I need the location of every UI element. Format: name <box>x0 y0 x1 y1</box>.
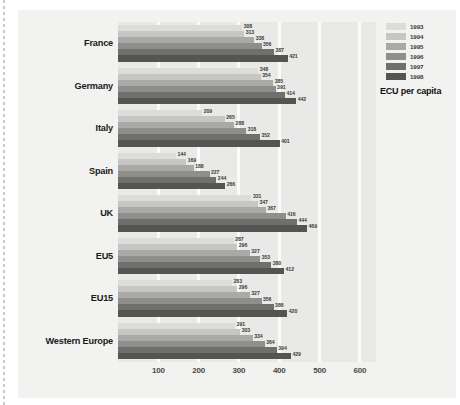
value-label-germany-1997: 414 <box>286 90 294 96</box>
legend-swatch-1993 <box>386 23 406 30</box>
x-axis-tick-labels: 100200300400500600 <box>118 366 376 382</box>
category-label-western-europe: Western Europe <box>46 336 113 346</box>
legend-label-1994: 1994 <box>410 33 423 40</box>
value-label-uk-1997: 444 <box>298 217 306 223</box>
chart-figure: FranceGermanyItalySpainUKEU5EU15Western … <box>18 10 456 398</box>
value-label-western-europe-1997: 394 <box>278 345 286 351</box>
legend-label-1993: 1993 <box>410 23 423 30</box>
bar-western-europe-1998 <box>118 353 291 359</box>
bar-groups: 3083133383563874213483543853914144422092… <box>118 22 376 362</box>
category-axis-labels: FranceGermanyItalySpainUKEU5EU15Western … <box>18 22 113 362</box>
value-label-france-1996: 356 <box>263 41 271 47</box>
category-label-eu5: EU5 <box>96 251 113 261</box>
legend-label-1995: 1995 <box>410 43 423 50</box>
legend-swatch-1994 <box>386 33 406 40</box>
bar-germany-1998 <box>118 98 296 104</box>
value-label-italy-1994: 265 <box>226 114 234 120</box>
value-label-eu5-1997: 380 <box>273 260 281 266</box>
bar-eu15-1998 <box>118 310 287 316</box>
legend-swatch-1996 <box>386 53 406 60</box>
category-label-eu15: EU15 <box>91 293 113 303</box>
value-label-western-europe-1996: 364 <box>266 339 274 345</box>
category-label-spain: Spain <box>89 166 113 176</box>
legend-entry-1993: 1993 <box>386 22 452 31</box>
legend-label-1997: 1997 <box>410 63 423 70</box>
value-label-germany-1998: 442 <box>298 96 306 102</box>
value-label-italy-1993: 209 <box>204 108 212 114</box>
value-label-eu5-1996: 353 <box>262 254 270 260</box>
legend-swatch-1995 <box>386 43 406 50</box>
x-tick-400: 400 <box>273 366 286 375</box>
legend-swatch-1997 <box>386 63 406 70</box>
x-tick-300: 300 <box>233 366 246 375</box>
bar-uk-1998 <box>118 225 307 231</box>
chart-legend: 199319941995199619971998 ECU per capita <box>386 22 452 96</box>
value-label-france-1997: 387 <box>276 47 284 53</box>
value-label-eu15-1998: 420 <box>289 308 297 314</box>
value-label-eu15-1997: 386 <box>275 302 283 308</box>
legend-entry-1997: 1997 <box>386 62 452 71</box>
bar-france-1998 <box>118 55 288 61</box>
x-tick-500: 500 <box>313 366 326 375</box>
value-label-eu15-1994: 296 <box>239 284 247 290</box>
bar-eu5-1998 <box>118 268 284 274</box>
value-label-western-europe-1995: 334 <box>254 333 262 339</box>
value-label-spain-1998: 266 <box>227 181 235 187</box>
value-label-eu5-1998: 412 <box>286 266 294 272</box>
value-label-spain-1993: 144 <box>178 151 186 157</box>
value-label-spain-1995: 188 <box>195 163 203 169</box>
legend-entry-1994: 1994 <box>386 32 452 41</box>
value-label-eu5-1995: 327 <box>251 248 259 254</box>
value-label-italy-1997: 352 <box>261 132 269 138</box>
legend-entries: 199319941995199619971998 <box>386 22 452 81</box>
value-label-italy-1998: 401 <box>281 138 289 144</box>
x-tick-600: 600 <box>354 366 367 375</box>
legend-axis-title: ECU per capita <box>380 86 452 96</box>
value-label-italy-1996: 318 <box>248 126 256 132</box>
value-label-eu5-1994: 296 <box>239 242 247 248</box>
value-label-spain-1997: 244 <box>218 175 226 181</box>
page-scan-edge-artifact <box>3 0 5 405</box>
category-label-uk: UK <box>100 208 113 218</box>
value-label-eu15-1995: 327 <box>251 290 259 296</box>
value-label-italy-1995: 288 <box>236 120 244 126</box>
value-label-uk-1998: 469 <box>309 223 317 229</box>
value-label-germany-1996: 391 <box>277 84 285 90</box>
value-label-uk-1995: 367 <box>267 205 275 211</box>
legend-label-1998: 1998 <box>410 73 423 80</box>
legend-entry-1998: 1998 <box>386 72 452 81</box>
legend-entry-1996: 1996 <box>386 52 452 61</box>
category-label-italy: Italy <box>96 123 113 133</box>
plot-area: 3083133383563874213483543853914144422092… <box>118 22 376 362</box>
legend-entry-1995: 1995 <box>386 42 452 51</box>
value-label-uk-1996: 416 <box>287 211 295 217</box>
bar-italy-1998 <box>118 140 280 146</box>
value-label-france-1998: 421 <box>289 53 297 59</box>
legend-label-1996: 1996 <box>410 53 423 60</box>
x-tick-100: 100 <box>152 366 165 375</box>
category-label-germany: Germany <box>75 81 113 91</box>
value-label-germany-1994: 354 <box>262 72 270 78</box>
value-label-western-europe-1998: 429 <box>292 351 300 357</box>
legend-swatch-1998 <box>386 73 406 80</box>
value-label-eu15-1996: 356 <box>263 296 271 302</box>
bar-spain-1998 <box>118 183 225 189</box>
category-label-france: France <box>84 38 113 48</box>
value-label-western-europe-1994: 303 <box>242 327 250 333</box>
value-label-france-1994: 313 <box>246 29 254 35</box>
x-tick-200: 200 <box>192 366 205 375</box>
